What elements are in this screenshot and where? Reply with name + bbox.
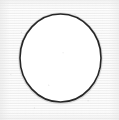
shape-layer	[0, 0, 119, 120]
circle-shape-svg	[0, 0, 119, 120]
image-canvas: A single circle outlined in black on whi…	[0, 0, 119, 120]
